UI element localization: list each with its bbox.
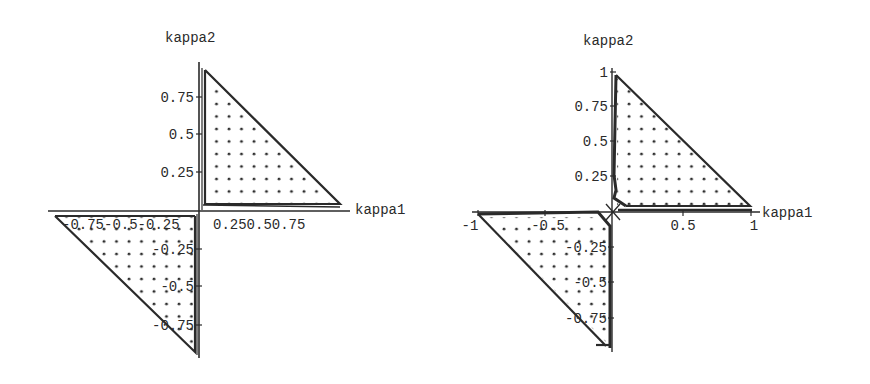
left-plot: kappa2 kappa1 0.75 0.5 0.25 -0.25 -0.5 -… [48,30,405,358]
right-ytick-0.75: 0.75 [574,99,608,115]
left-ytick--0.75: -0.75 [152,318,194,334]
left-ylabel: kappa2 [165,30,215,46]
left-ytick-0.5: 0.5 [169,127,194,143]
right-ytick--0.5: -0.5 [573,275,607,291]
right-xtick-1: 1 [750,218,758,234]
right-xtick--0.5: -0.5 [531,218,565,234]
left-xticks-positive: 0.250.50.75 [213,217,305,233]
left-ytick--0.5: -0.5 [160,279,194,295]
left-ytick-0.25: 0.25 [160,165,194,181]
right-xtick-0.5: 0.5 [670,218,695,234]
left-ytick-0.75: 0.75 [160,90,194,106]
right-ytick--0.25: -0.25 [565,240,607,256]
right-xtick--1: -1 [462,218,479,234]
right-ylabel: kappa2 [583,33,633,49]
left-ytick--0.25: -0.25 [152,242,194,258]
right-ytick-0.5: 0.5 [583,134,608,150]
right-plot: kappa2 kappa1 1 0.75 0.5 0.25 -0.25 -0.5… [462,33,813,352]
left-xlabel: kappa1 [355,202,405,218]
right-ytick-1: 1 [600,65,608,81]
right-ytick-0.25: 0.25 [574,169,608,185]
right-xlabel: kappa1 [762,205,812,221]
right-ytick--0.75: -0.75 [565,311,607,327]
left-xticks-negative: -0.75-0.5-0.25 [62,217,180,233]
figure: kappa2 kappa1 0.75 0.5 0.25 -0.25 -0.5 -… [0,0,870,384]
